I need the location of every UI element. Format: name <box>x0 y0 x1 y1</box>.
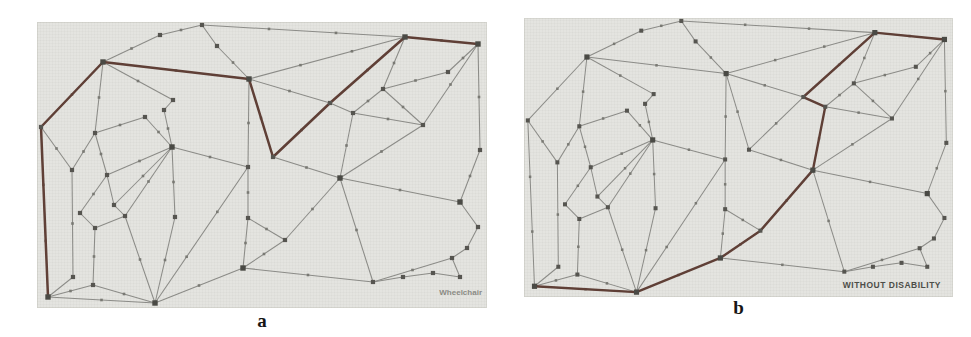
graph-edge <box>403 273 433 277</box>
graph-node <box>801 95 805 99</box>
graph-node <box>246 76 251 81</box>
panel-wheelchair: Wheelchair <box>37 22 487 308</box>
graph-node <box>925 265 929 269</box>
edge-marker <box>624 167 626 170</box>
graph-node <box>465 246 469 250</box>
edge-marker <box>556 87 558 90</box>
graph-node <box>162 108 166 112</box>
graph-node <box>78 211 82 215</box>
edge-marker <box>724 115 726 118</box>
graph-node <box>694 39 698 43</box>
edge-marker <box>665 246 667 249</box>
network-graph-wheelchair <box>37 22 487 308</box>
graph-node <box>723 207 727 211</box>
graph-node <box>402 34 407 39</box>
graph-edge <box>467 227 478 248</box>
graph-node <box>589 165 593 169</box>
edge-marker <box>55 147 58 150</box>
edge-marker <box>82 150 85 153</box>
graph-node <box>654 206 658 210</box>
graph-node <box>723 157 727 161</box>
graph-node <box>575 273 579 277</box>
edge-marker <box>71 222 74 225</box>
edge-marker <box>780 159 782 162</box>
edge-marker <box>695 202 697 205</box>
edge-marker <box>130 47 133 50</box>
edge-marker <box>414 79 417 82</box>
graph-edge <box>565 204 579 219</box>
graph-node <box>584 54 589 59</box>
edge-marker <box>744 24 746 27</box>
edge-marker <box>555 279 557 282</box>
edge-marker <box>619 74 621 77</box>
edge-marker <box>742 219 744 222</box>
graph-node <box>476 225 480 229</box>
edge-marker <box>147 180 150 183</box>
graph-node <box>823 105 827 109</box>
graph-node <box>215 44 219 48</box>
graph-edge <box>95 216 125 228</box>
graph-node <box>475 41 480 46</box>
edge-marker <box>620 152 622 155</box>
graph-node <box>93 131 97 135</box>
edge-marker <box>216 211 219 214</box>
graph-node <box>371 280 375 284</box>
graph-node <box>93 226 97 230</box>
edge-marker <box>869 181 871 184</box>
graph-edge <box>579 207 608 219</box>
edge-marker <box>247 122 250 125</box>
graph-edge <box>934 218 944 238</box>
edge-marker <box>478 96 481 99</box>
edge-marker <box>185 255 188 258</box>
edge-marker <box>335 32 338 35</box>
graph-edge <box>591 167 598 196</box>
graph-node <box>718 255 723 260</box>
graph-node <box>810 168 815 173</box>
graph-edge <box>330 103 353 113</box>
edge-marker <box>351 50 354 53</box>
graph-node <box>246 165 250 169</box>
edge-marker <box>710 56 712 59</box>
graph-node <box>71 275 75 279</box>
graph-node <box>652 92 656 96</box>
edge-marker <box>557 213 559 216</box>
graph-node <box>556 265 560 269</box>
edge-marker <box>917 78 919 81</box>
edge-marker <box>93 255 96 258</box>
graph-node <box>450 256 454 260</box>
graph-node <box>240 265 245 270</box>
edge-marker <box>345 144 348 147</box>
edge-marker <box>577 245 579 248</box>
edge-marker <box>69 290 72 293</box>
panel-without-disability: WITHOUT DISABILITY <box>524 18 953 297</box>
edge-marker <box>288 90 291 93</box>
graph-node <box>577 124 581 128</box>
edge-marker <box>567 143 569 146</box>
graph-node <box>595 194 599 198</box>
graph-edge <box>433 273 460 277</box>
graph-edge <box>920 248 928 267</box>
edge-marker <box>98 96 101 99</box>
edge-marker <box>311 208 314 211</box>
graph-node <box>526 118 530 122</box>
graph-node <box>871 265 875 269</box>
graph-node <box>918 246 922 250</box>
edge-marker <box>299 64 302 67</box>
edge-marker <box>411 269 414 272</box>
graph-edge <box>902 263 928 267</box>
graph-node <box>625 109 629 113</box>
graph-node <box>173 215 177 219</box>
edge-marker <box>857 111 859 114</box>
edge-marker <box>172 181 175 184</box>
edge-marker <box>602 117 604 120</box>
graph-node <box>152 300 157 305</box>
edge-marker <box>355 229 358 232</box>
graph-edge <box>202 25 405 37</box>
edge-marker <box>92 193 95 196</box>
edge-marker <box>100 299 103 302</box>
graph-edge <box>460 202 478 227</box>
edge-marker <box>367 100 370 103</box>
graph-edge <box>681 21 695 41</box>
graph-edge <box>681 21 875 33</box>
edge-marker <box>808 27 810 30</box>
